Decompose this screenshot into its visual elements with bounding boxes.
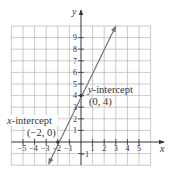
svg-text:5: 5 <box>137 144 141 153</box>
svg-text:5: 5 <box>73 80 77 89</box>
svg-text:4: 4 <box>125 144 129 153</box>
y-intercept-label: y-intercept <box>87 84 133 95</box>
svg-text:−2: −2 <box>53 144 62 153</box>
svg-text:−1: −1 <box>64 144 73 153</box>
svg-text:7: 7 <box>73 57 77 66</box>
svg-text:6: 6 <box>73 68 77 77</box>
x-tick-labels: −5 −4 −3 −2 −1 1 2 3 4 5 <box>18 144 141 153</box>
svg-text:3: 3 <box>114 144 118 153</box>
svg-text:1: 1 <box>91 144 95 153</box>
svg-text:−5: −5 <box>18 144 27 153</box>
y-intercept-point <box>79 94 82 97</box>
svg-text:8: 8 <box>73 45 77 54</box>
svg-text:−4: −4 <box>29 144 38 153</box>
graph: x y −5 −4 −3 −2 −1 1 2 3 4 5 9 8 7 6 5 4… <box>0 0 172 175</box>
svg-text:−3: −3 <box>41 144 50 153</box>
svg-text:2: 2 <box>73 115 77 124</box>
svg-text:2: 2 <box>102 144 106 153</box>
x-intercept-label: x-intercept <box>6 115 52 126</box>
svg-text:3: 3 <box>73 103 77 112</box>
svg-text:4: 4 <box>73 91 77 100</box>
y-intercept-coord: (0, 4) <box>89 96 112 108</box>
svg-text:1: 1 <box>73 126 77 135</box>
y-axis-label: y <box>71 6 77 17</box>
x-axis-label: x <box>159 143 165 154</box>
x-intercept-coord: (−2, 0) <box>27 127 56 139</box>
svg-text:−1: −1 <box>80 150 89 159</box>
svg-text:9: 9 <box>73 33 77 42</box>
